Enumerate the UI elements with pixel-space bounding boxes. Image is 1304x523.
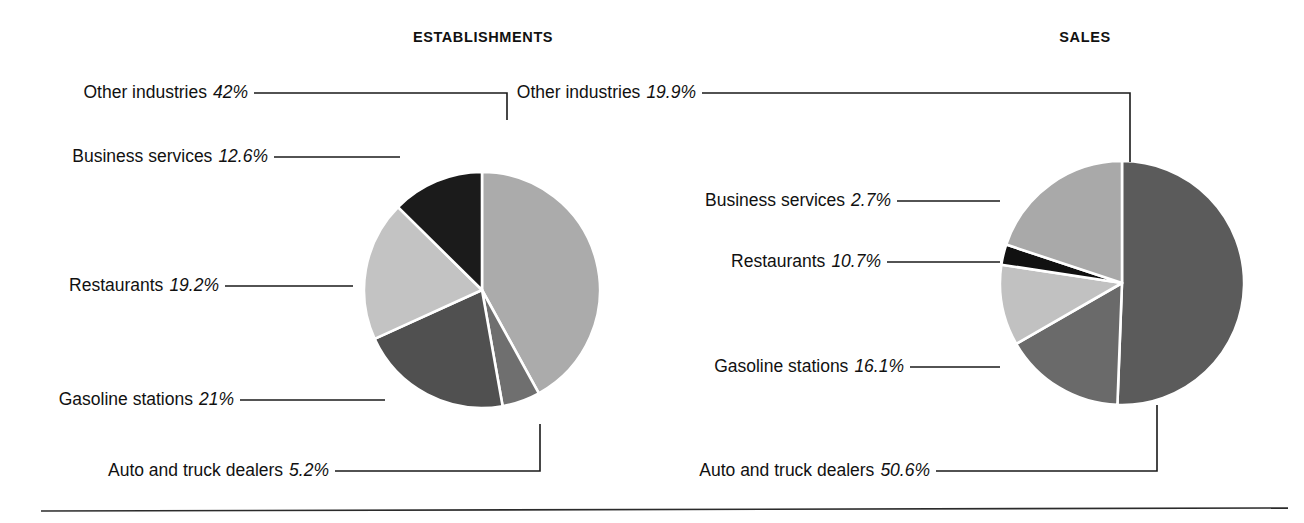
callout-sales-restaurants[interactable]: Restaurants10.7% bbox=[0, 253, 881, 271]
callout-percent-value: 19.2% bbox=[169, 275, 219, 295]
callout-percent-value: 50.6% bbox=[880, 460, 930, 480]
callout-category-label: Business services bbox=[72, 146, 212, 166]
figure-canvas: ESTABLISHMENTS SALES Other industries42%… bbox=[0, 0, 1304, 523]
callout-sales-gasoline-stations[interactable]: Gasoline stations16.1% bbox=[0, 358, 904, 376]
callout-category-label: Gasoline stations bbox=[714, 356, 848, 376]
callout-establishments-gasoline-stations[interactable]: Gasoline stations21% bbox=[0, 391, 234, 409]
pie-slice-auto-and-truck-dealers[interactable] bbox=[1117, 161, 1244, 405]
callout-category-label: Other industries bbox=[517, 82, 641, 102]
callout-percent-value: 16.1% bbox=[854, 356, 904, 376]
callout-percent-value: 19.9% bbox=[646, 82, 696, 102]
callout-category-label: Auto and truck dealers bbox=[699, 460, 874, 480]
callout-establishments-restaurants[interactable]: Restaurants19.2% bbox=[0, 277, 219, 295]
callout-percent-value: 10.7% bbox=[831, 251, 881, 271]
leader-line-sales-auto-and-truck-dealers bbox=[936, 405, 1157, 471]
callout-category-label: Business services bbox=[705, 190, 845, 210]
bottom-separator-rule bbox=[41, 508, 1288, 511]
callout-category-label: Gasoline stations bbox=[59, 389, 193, 409]
panel-title-establishments: ESTABLISHMENTS bbox=[283, 29, 683, 45]
callout-sales-other-industries[interactable]: Other industries19.9% bbox=[0, 84, 696, 102]
callout-sales-business-services[interactable]: Business services2.7% bbox=[0, 192, 891, 210]
callout-percent-value: 21% bbox=[199, 389, 234, 409]
callout-percent-value: 2.7% bbox=[851, 190, 891, 210]
callout-percent-value: 12.6% bbox=[218, 146, 268, 166]
panel-title-sales: SALES bbox=[885, 29, 1285, 45]
callout-establishments-business-services[interactable]: Business services12.6% bbox=[0, 148, 268, 166]
callout-category-label: Restaurants bbox=[69, 275, 163, 295]
callout-category-label: Restaurants bbox=[731, 251, 825, 271]
leader-line-sales-other-industries bbox=[702, 93, 1130, 162]
callout-sales-auto-and-truck-dealers[interactable]: Auto and truck dealers50.6% bbox=[0, 462, 930, 480]
